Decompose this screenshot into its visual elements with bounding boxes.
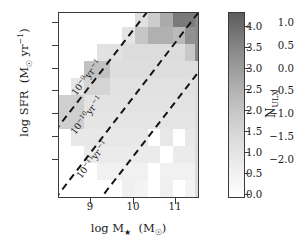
heatmap-edge-strip	[195, 13, 198, 61]
y-axis-label: log SFR (M☉ yr−1)	[16, 0, 33, 176]
colorbar-label: NULX	[264, 64, 280, 144]
colorbar-tick-label: 4.0	[246, 22, 280, 32]
colorbar-tick-label: 0.5	[246, 169, 280, 179]
heatmap-cell	[122, 61, 135, 78]
heatmap-cell	[122, 78, 135, 95]
colorbar-tick-label: 0.0	[246, 190, 280, 200]
heatmap-cell	[148, 44, 160, 61]
heatmap-cell	[160, 180, 173, 197]
heatmap-cell	[135, 95, 148, 112]
heatmap-cell	[122, 163, 135, 180]
heatmap-cell	[97, 163, 110, 180]
x-axis-label: log M★ (M☉)	[58, 221, 199, 237]
x-tick-mark	[175, 198, 176, 204]
x-tick-mark	[133, 198, 134, 204]
colorbar-tick-mark	[245, 26, 250, 27]
heatmap-cell	[110, 129, 122, 146]
heatmap-cell	[84, 129, 97, 146]
colorbar-tick-mark	[245, 89, 250, 90]
heatmap-cell	[135, 44, 148, 61]
x-tick-mark	[90, 198, 91, 204]
heatmap-cell	[173, 27, 185, 44]
heatmap-cell	[135, 180, 148, 197]
heatmap-cell	[160, 78, 173, 95]
heatmap-cell	[135, 163, 148, 180]
heatmap-cell	[173, 163, 185, 180]
plot-area[interactable]: 10 −9 yr −1 10 −10 yr −1 10 −11 yr −1	[58, 12, 199, 198]
heatmap-cell	[173, 78, 185, 95]
colorbar-tick-mark	[245, 68, 250, 69]
colorbar[interactable]	[228, 12, 245, 198]
heatmap-cell	[173, 13, 185, 27]
colorbar-tick-mark	[245, 173, 250, 174]
heatmap-cell	[97, 112, 110, 129]
figure-root: log SFR (M☉ yr−1) 1.0 0.5 0.0 −0.5 −1.0 …	[0, 0, 294, 243]
heatmap-cell	[148, 13, 160, 27]
colorbar-tick-label: 1.0	[246, 148, 280, 158]
heatmap-cell	[122, 44, 135, 61]
heatmap-cell	[148, 78, 160, 95]
heatmap-cell	[122, 146, 135, 163]
heatmap-cell	[135, 61, 148, 78]
colorbar-tick-mark	[245, 110, 250, 111]
heatmap-cell	[122, 112, 135, 129]
heatmap-cell	[160, 13, 173, 27]
heatmap-cell	[110, 61, 122, 78]
colorbar-tick-mark	[245, 131, 250, 132]
heatmap-cell	[110, 146, 122, 163]
heatmap-cell	[110, 78, 122, 95]
colorbar-tick-mark	[245, 152, 250, 153]
heatmap-canvas: 10 −9 yr −1 10 −10 yr −1 10 −11 yr −1	[59, 13, 198, 197]
heatmap-cell	[135, 146, 148, 163]
heatmap-cell	[135, 129, 148, 146]
heatmap-cell	[110, 95, 122, 112]
heatmap-cell	[173, 44, 185, 61]
colorbar-tick-label: 3.5	[246, 43, 280, 53]
heatmap-cell	[160, 95, 173, 112]
heatmap-cell	[160, 163, 173, 180]
heatmap-cell	[173, 146, 185, 163]
heatmap-cell	[148, 27, 160, 44]
colorbar-tick-mark	[245, 194, 250, 195]
heatmap-cell	[97, 78, 110, 95]
heatmap-cell	[148, 112, 160, 129]
heatmap-cell	[148, 95, 160, 112]
colorbar-tick-mark	[245, 47, 250, 48]
heatmap-cell	[173, 112, 185, 129]
heatmap-cell	[160, 129, 173, 146]
heatmap-cell	[97, 44, 110, 61]
heatmap-cell	[160, 61, 173, 78]
heatmap-cell	[122, 129, 135, 146]
heatmap-cell	[148, 146, 160, 163]
heatmap-cell	[59, 95, 71, 112]
heatmap-cell	[122, 180, 135, 197]
heatmap-cell	[173, 61, 185, 78]
heatmap-cell	[135, 112, 148, 129]
heatmap-cell	[135, 27, 148, 44]
heatmap-cell	[160, 27, 173, 44]
